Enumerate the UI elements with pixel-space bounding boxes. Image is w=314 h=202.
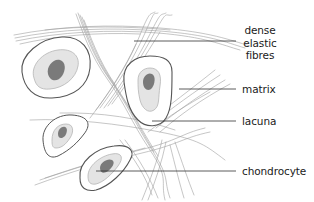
chondrocyte-cell-3 <box>43 115 88 157</box>
elastic-cartilage-diagram: dense elastic fibres matrix lacuna chond… <box>0 0 314 202</box>
label-matrix: matrix <box>242 83 276 96</box>
chondrocyte-cell-1 <box>22 37 90 98</box>
chondrocyte-cell-4 <box>80 146 132 191</box>
chondrocyte-cell-2 <box>124 56 172 126</box>
label-dense-elastic-fibres: dense elastic fibres <box>242 24 278 62</box>
label-chondrocyte: chondrocyte <box>242 165 306 178</box>
label-lacuna: lacuna <box>242 115 276 128</box>
